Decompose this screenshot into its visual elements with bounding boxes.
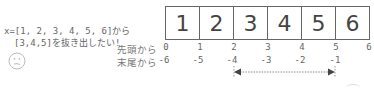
positive-index: 1 [197, 42, 202, 52]
partial-face-icon [346, 84, 360, 90]
array-cell: 1 [166, 7, 200, 39]
array-cell: 5 [302, 7, 336, 39]
slice-arrow-icon [230, 64, 340, 78]
positive-index: 2 [231, 42, 236, 52]
positive-index: 0 [163, 42, 168, 52]
label-from-start: 先頭から [117, 42, 157, 56]
confused-face-icon [8, 52, 26, 70]
negative-index: -6 [159, 55, 170, 65]
array-cell: 2 [200, 7, 234, 39]
negative-index: -5 [193, 55, 204, 65]
array-boxes: 1 2 3 4 5 6 [165, 6, 370, 40]
positive-index: 5 [333, 42, 338, 52]
positive-index: 6 [366, 42, 371, 52]
array-cell: 4 [268, 7, 302, 39]
array-cell: 6 [336, 7, 369, 39]
description-line-2: [3,4,5]を抜き出したい! [14, 36, 120, 49]
positive-index: 4 [299, 42, 304, 52]
array-cell: 3 [234, 7, 268, 39]
label-from-end: 末尾から [117, 55, 157, 69]
positive-index: 3 [265, 42, 270, 52]
